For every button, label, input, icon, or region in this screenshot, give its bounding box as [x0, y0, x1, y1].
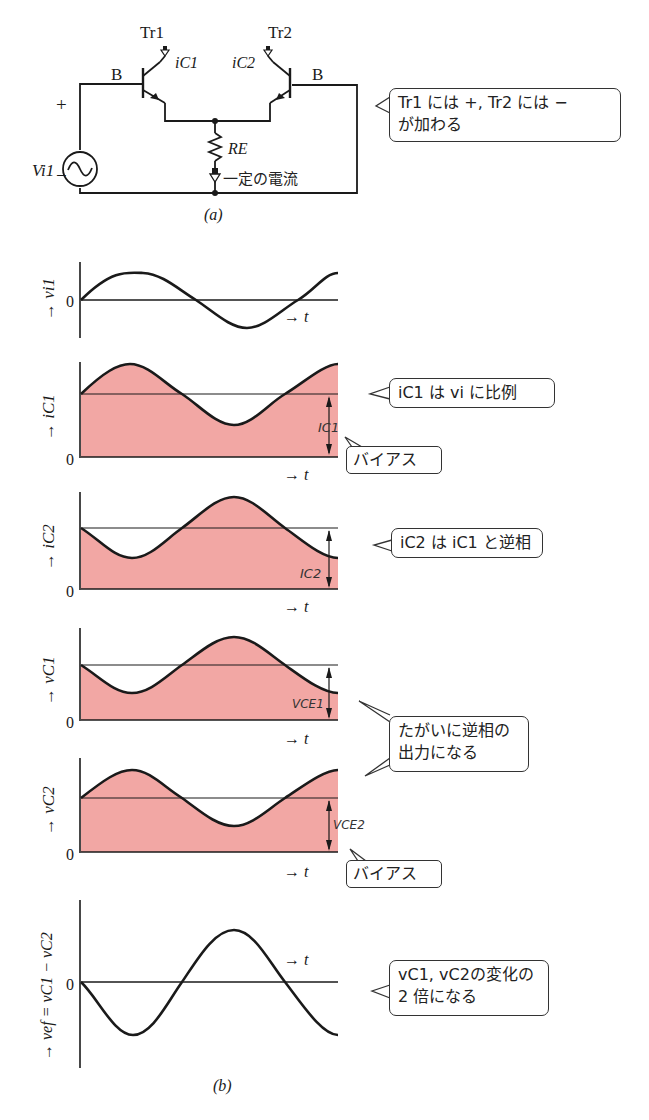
- y-label-ic1: → iC1: [39, 394, 58, 440]
- callout-ic1-proportional: iC1 は vi に比例: [389, 378, 555, 408]
- callout-text: iC2 は iC1 と逆相: [400, 532, 534, 554]
- callout-tr-polarity-line1: Tr1 には +, Tr2 には −: [398, 92, 612, 114]
- time-label: → t: [284, 951, 309, 968]
- callout-text: バイアス: [353, 863, 435, 885]
- tr1-label: Tr1: [140, 23, 164, 42]
- constant-current-label: 一定の電流: [223, 170, 298, 188]
- callout-text: iC1 は vi に比例: [398, 382, 546, 404]
- y-label-vc1: → vC1: [39, 656, 58, 705]
- callout-tr-polarity: Tr1 には +, Tr2 には − が加わる: [389, 88, 621, 142]
- re-label: RE: [227, 140, 248, 157]
- y-label-vi1: → vi1: [39, 278, 58, 320]
- callout-text-line1: vC1, vC2の変化の: [398, 964, 540, 986]
- minus-sign: −: [56, 165, 67, 186]
- ic2-label: iC2: [232, 54, 255, 71]
- zero-label: 0: [66, 583, 74, 600]
- callout-ic2-antiphase: iC2 は iC1 と逆相: [391, 528, 543, 558]
- chart-vc1: VCE1: [80, 628, 338, 721]
- zero-label: 0: [66, 976, 74, 993]
- chart-ic2: IC2: [80, 492, 338, 590]
- callout-text: バイアス: [353, 449, 435, 471]
- callout-double-change: vC1, vC2の変化の 2 倍になる: [389, 960, 549, 1016]
- callout-bias-1: バイアス: [346, 446, 442, 474]
- tr2-label: Tr2: [268, 23, 292, 42]
- base-left-label: B: [111, 65, 122, 84]
- chart-vef: [80, 900, 338, 1068]
- time-label: → t: [284, 863, 309, 880]
- time-label: → t: [284, 730, 309, 747]
- zero-label: 0: [66, 293, 74, 310]
- callout-mutual-antiphase: たがいに逆相の 出力になる: [389, 716, 529, 772]
- zero-label: 0: [66, 846, 74, 863]
- base-right-label: B: [312, 65, 323, 84]
- chart-vi1: [80, 262, 338, 338]
- callout-tr-polarity-line2: が加わる: [398, 114, 612, 136]
- y-label-ic2: → iC2: [39, 524, 58, 570]
- bias-label-vc1: VCE1: [292, 697, 324, 711]
- zero-label: 0: [66, 714, 74, 731]
- bias-label-vc2: VCE2: [333, 818, 365, 832]
- bias-label-ic1: IC1: [318, 420, 339, 435]
- circuit-diagram: Tr1 Tr2 iC1 iC2 B B + − Vi1 RE 一定の電流 (a)…: [0, 0, 649, 1120]
- time-label: → t: [284, 598, 309, 615]
- callout-text-line2: 2 倍になる: [398, 986, 540, 1008]
- bias-label-ic2: IC2: [300, 566, 321, 581]
- y-label-vc2: → vC2: [39, 786, 58, 835]
- zero-label: 0: [66, 451, 74, 468]
- callout-bias-2: バイアス: [346, 860, 442, 888]
- ic1-label: iC1: [175, 54, 198, 71]
- source-label: Vi1: [32, 161, 54, 180]
- y-label-vef: → vef = vC1 − vC2: [38, 932, 56, 1060]
- chart-ic1: IC1: [80, 362, 339, 458]
- caption-b: (b): [213, 1077, 232, 1095]
- time-label: → t: [284, 466, 309, 483]
- time-label: → t: [284, 308, 309, 325]
- chart-vc2: VCE2: [80, 758, 365, 853]
- callout-text-line1: たがいに逆相の: [398, 720, 520, 742]
- caption-a: (a): [204, 206, 223, 224]
- callout-text-line2: 出力になる: [398, 742, 520, 764]
- plus-sign: +: [56, 94, 67, 115]
